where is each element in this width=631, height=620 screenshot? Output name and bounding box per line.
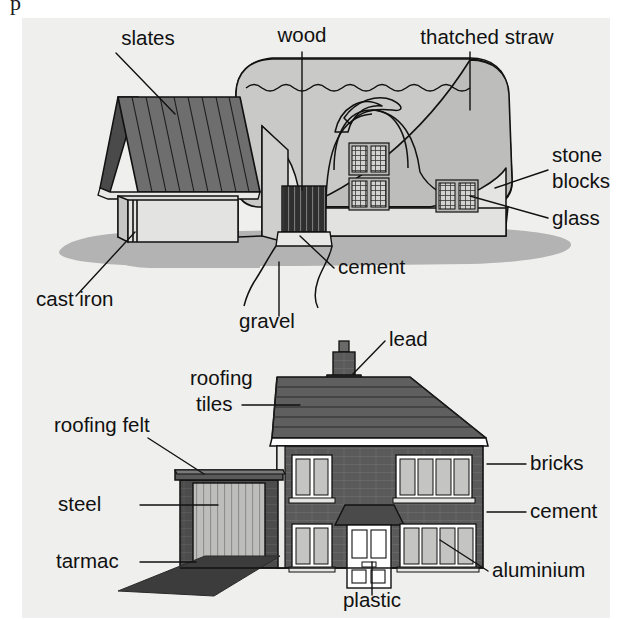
label-aluminium: aluminium <box>492 558 585 581</box>
label-roofing-tiles-line1: roofing <box>190 366 253 389</box>
upper-window-left <box>289 455 335 503</box>
label-lead: lead <box>389 327 428 350</box>
roof-fascia <box>270 438 488 446</box>
label-roofing-felt: roofing felt <box>54 413 150 436</box>
cottage-upper-window <box>349 143 389 175</box>
door-lower-panel-left <box>352 570 366 583</box>
chimney-pot <box>339 341 349 352</box>
label-stone-blocks-line1: stone <box>552 143 602 166</box>
material-diagram-page: slates wood thatched straw stone blocks … <box>0 0 631 620</box>
label-tarmac: tarmac <box>56 549 119 572</box>
cottage-base-join <box>238 236 262 237</box>
door-canopy <box>335 505 404 525</box>
label-cast-iron: cast iron <box>36 287 113 310</box>
label-gravel: gravel <box>239 309 295 332</box>
garage-steel-door <box>193 483 265 563</box>
label-stone-blocks-line2: blocks <box>552 169 610 192</box>
upper-window-right <box>393 455 475 503</box>
cottage-wood-door <box>282 186 326 232</box>
label-thatched-straw: thatched straw <box>420 25 554 48</box>
label-cement-cottage: cement <box>338 255 406 278</box>
door-glass-panel-right <box>371 530 386 558</box>
label-wood: wood <box>276 23 326 46</box>
chimney-stack <box>333 352 355 378</box>
label-cement-house: cement <box>530 499 598 522</box>
label-roofing-tiles-line2: tiles <box>196 392 232 415</box>
label-bricks: bricks <box>530 451 584 474</box>
door-lower-panel-right <box>371 570 385 583</box>
cottage-lower-window-left <box>349 178 389 210</box>
door-glass-panel-left <box>352 530 367 558</box>
label-plastic: plastic <box>343 588 401 611</box>
clipped-title-fragment: p <box>10 0 21 15</box>
label-slates: slates <box>121 26 175 49</box>
lower-window-right <box>397 524 479 572</box>
label-steel: steel <box>58 492 101 515</box>
outbuilding-wall-front <box>128 200 238 242</box>
garage-roof-top-edge <box>175 470 285 474</box>
door-letterbox <box>362 562 376 567</box>
house-materials-diagram: slates wood thatched straw stone blocks … <box>0 0 631 620</box>
outbuilding-wall-left-return <box>118 196 128 242</box>
lower-window-left <box>289 524 335 572</box>
label-glass: glass <box>552 206 600 229</box>
